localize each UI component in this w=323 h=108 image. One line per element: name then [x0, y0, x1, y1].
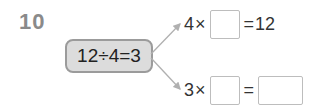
- top-equals-sign: =: [244, 14, 255, 35]
- branch-bottom-equation: 3 × =: [184, 76, 306, 104]
- branch-top-equation: 4 × = 12: [184, 10, 275, 38]
- bottom-times-sign: ×: [195, 80, 206, 101]
- top-answer-box[interactable]: [210, 10, 240, 39]
- bottom-answer-box[interactable]: [210, 76, 240, 105]
- top-factor: 4: [184, 14, 194, 35]
- bottom-factor: 3: [184, 80, 194, 101]
- bottom-equals-sign: =: [244, 80, 255, 101]
- bottom-result-box[interactable]: [258, 76, 303, 105]
- top-result: 12: [255, 14, 275, 35]
- top-times-sign: ×: [195, 14, 206, 35]
